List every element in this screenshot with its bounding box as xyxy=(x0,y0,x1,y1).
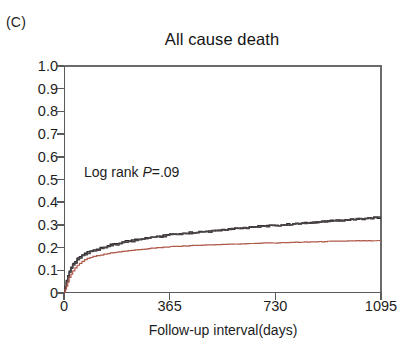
y-axis-tick-label: 0.9 xyxy=(10,81,58,96)
x-axis-tick-mark xyxy=(63,293,65,300)
y-axis-tick-mark xyxy=(57,179,64,181)
x-axis-tick-label: 730 xyxy=(263,298,287,314)
y-axis-tick-mark xyxy=(57,270,64,272)
y-axis-tick-label: 0.4 xyxy=(10,195,58,210)
x-axis-label: Follow-up interval(days) xyxy=(64,322,382,338)
y-axis-tick-mark xyxy=(57,133,64,135)
x-axis-tick-mark xyxy=(169,293,171,300)
y-axis-tick-label: 0.5 xyxy=(10,172,58,187)
y-axis-tick-label: 0 xyxy=(10,286,58,301)
y-axis-tick-label: 0.6 xyxy=(10,150,58,165)
y-axis-tick-label: 0.2 xyxy=(10,240,58,255)
curve-group-1-dark xyxy=(64,218,381,293)
y-axis-tick-mark xyxy=(57,224,64,226)
y-axis-tick-mark xyxy=(57,111,64,113)
y-axis-tick-label: 0.8 xyxy=(10,104,58,119)
x-axis-tick-label: 365 xyxy=(158,298,182,314)
y-axis-tick-label: 0.1 xyxy=(10,263,58,278)
x-axis-tick-mark xyxy=(275,293,277,300)
chart-title: All cause death xyxy=(63,30,381,49)
y-axis-tick-mark xyxy=(57,201,64,203)
y-axis-tick-mark xyxy=(57,88,64,90)
panel-label: (C) xyxy=(6,14,26,30)
y-axis-tick-mark xyxy=(57,156,64,158)
y-axis-tick-mark xyxy=(57,247,64,249)
x-axis-tick-label: 1095 xyxy=(365,298,397,314)
figure-panel-c: (C) All cause death Incidence 00.10.20.3… xyxy=(0,0,406,350)
curve-group-2-dark xyxy=(64,216,381,293)
curve-series-group xyxy=(64,66,381,293)
x-axis-tick-label: 0 xyxy=(60,298,68,314)
y-axis-tick-label: 0.3 xyxy=(10,218,58,233)
y-axis-tick-mark xyxy=(57,65,64,67)
curve-group-3-red xyxy=(64,240,381,293)
y-axis-tick-label: 0.7 xyxy=(10,127,58,142)
y-axis-tick-label: 1.0 xyxy=(10,59,58,74)
x-axis-tick-mark xyxy=(380,293,382,300)
